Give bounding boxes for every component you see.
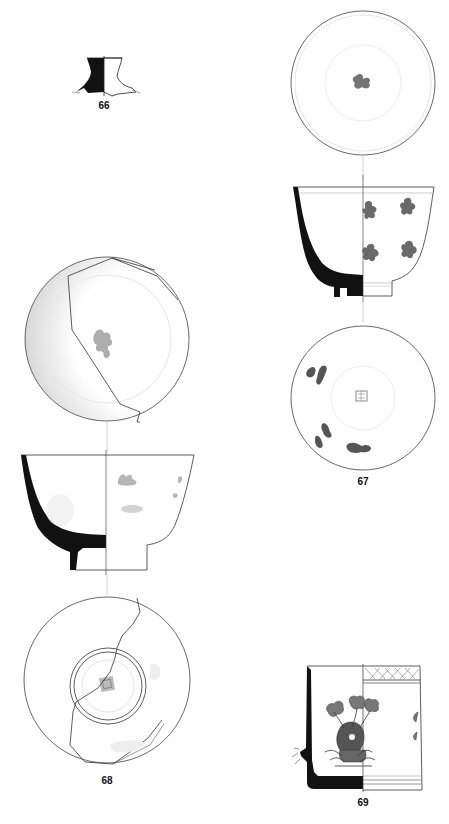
figure-67-base-view [291,326,435,470]
figure-66-drawing [72,56,140,96]
figure-67-interior-view [291,11,435,155]
figure-68-base-view [24,597,190,764]
figure-label-67: 67 [357,476,368,487]
ceramics-plate [0,0,449,824]
figure-68-profile [21,450,194,575]
figure-67-profile [293,175,434,302]
figure-label-68: 68 [101,775,112,786]
figure-label-66: 66 [98,100,109,111]
figure-label-69: 69 [357,797,368,808]
figure-68-interior-view [25,257,189,422]
figure-69-drawing [292,664,422,792]
